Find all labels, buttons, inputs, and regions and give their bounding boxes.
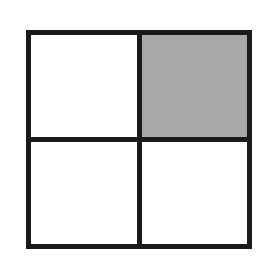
cell-bottom-right	[142, 142, 247, 244]
grid-square	[26, 30, 252, 249]
cell-top-right-shaded	[142, 35, 247, 137]
horizontal-divider	[31, 137, 247, 142]
cell-top-left	[31, 35, 137, 137]
cell-bottom-left	[31, 142, 137, 244]
